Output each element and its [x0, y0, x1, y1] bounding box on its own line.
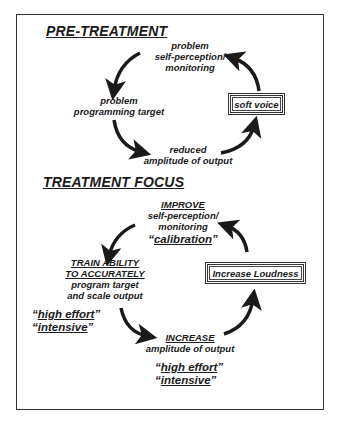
label-line: amplitude of output — [138, 156, 238, 167]
tf-left-label: TRAIN ABILITY TO ACCURATELY program targ… — [55, 258, 155, 302]
quote-line: “intensive” — [155, 374, 223, 387]
quote-line: “intensive” — [32, 321, 100, 334]
tf-left-quotes: “high effort” “intensive” — [32, 308, 100, 334]
quote-text: high effort — [161, 361, 218, 373]
tf-top-label: IMPROVE self-perception/ monitoring “cal… — [133, 200, 233, 246]
quote-text: intensive — [161, 374, 211, 386]
soft-voice-box: soft voice — [228, 93, 285, 115]
quote-text: high effort — [38, 308, 95, 320]
treatment-focus-heading: TREATMENT FOCUS — [43, 174, 184, 190]
label-line: amplitude of output — [140, 344, 240, 355]
pre-top-label: problem self-perception/ monitoring — [140, 41, 240, 74]
label-line: monitoring — [140, 63, 240, 74]
quote-text: intensive — [38, 321, 88, 333]
quote-text: calibration — [154, 233, 212, 245]
quote-line: “high effort” — [32, 308, 100, 321]
label-line: programming target — [64, 107, 174, 118]
pre-left-label: problem programming target — [64, 96, 174, 118]
pre-bottom-label: reduced amplitude of output — [138, 145, 238, 167]
label-line: and scale output — [55, 291, 155, 302]
tf-bottom-label: INCREASE amplitude of output — [140, 333, 240, 355]
calibration-quote: “calibration” — [133, 233, 233, 246]
tf-bottom-quotes: “high effort” “intensive” — [155, 361, 223, 387]
quote-line: “high effort” — [155, 361, 223, 374]
pre-treatment-heading: PRE-TREATMENT — [46, 23, 167, 39]
increase-loudness-box: Increase Loudness — [205, 262, 306, 284]
label-line: monitoring — [133, 222, 233, 233]
